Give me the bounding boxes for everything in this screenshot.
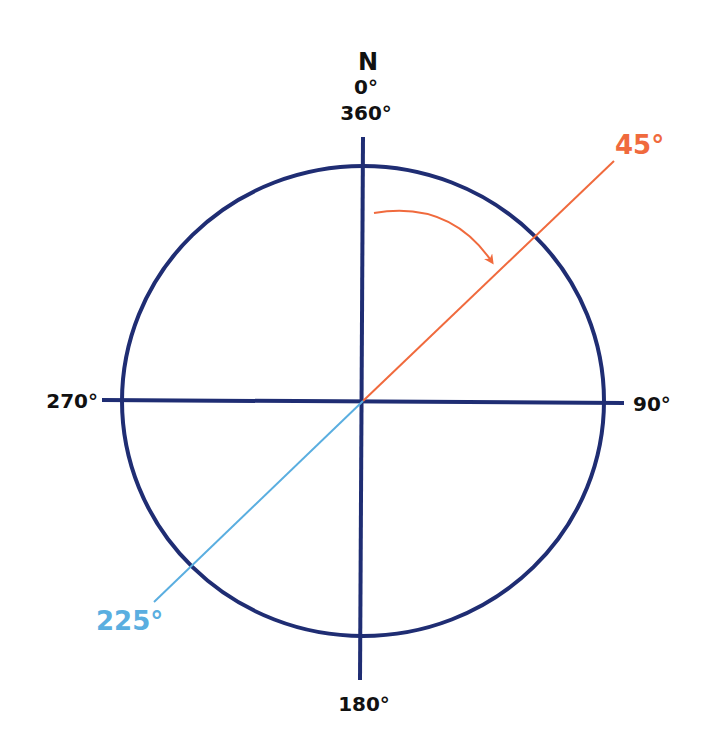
north-south-axis bbox=[360, 137, 363, 680]
south-180-label: 180° bbox=[338, 692, 390, 716]
clockwise-arrow-icon bbox=[374, 211, 492, 262]
west-270-label: 270° bbox=[46, 389, 98, 413]
bearing-225-label: 225° bbox=[96, 606, 163, 636]
compass-diagram: N 0° 360° 90° 270° 180° 45° 225° bbox=[0, 0, 715, 749]
north-360-label: 360° bbox=[340, 101, 392, 125]
bearing-45-label: 45° bbox=[615, 130, 664, 160]
east-90-label: 90° bbox=[633, 392, 671, 416]
bearing-225-line bbox=[154, 401, 363, 602]
north-letter-label: N bbox=[358, 48, 378, 76]
bearing-45-line bbox=[363, 161, 614, 401]
north-zero-label: 0° bbox=[354, 75, 378, 99]
